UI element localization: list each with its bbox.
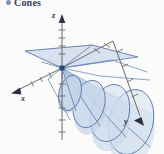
origin-apex-marker — [60, 66, 65, 71]
x-axis: x — [11, 68, 62, 103]
y-axis-label: y — [123, 117, 128, 126]
cones-3d-figure: z x — [0, 0, 164, 154]
x-axis-label: x — [20, 94, 25, 103]
figure-panel: Cones — [0, 0, 164, 154]
z-axis-label: z — [51, 11, 56, 20]
